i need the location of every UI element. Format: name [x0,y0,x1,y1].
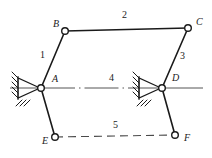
link-label-1: 1 [40,50,45,60]
pivot-hatching-A [12,72,30,106]
linkage-diagram-figure: A B C D E F 1 2 3 4 5 [0,0,212,158]
joint-label-E: E [42,136,48,146]
joint-marker-C [185,25,192,32]
joint-marker-E [52,134,59,141]
link-5-dashed-path [55,135,175,137]
link-label-5: 5 [113,120,118,130]
diagram-canvas [0,0,212,158]
joint-marker-F [172,132,179,139]
link-label-4: 4 [109,73,114,83]
link-5-line [55,135,175,137]
link-label-2: 2 [122,10,127,20]
joint-label-C: C [196,17,203,27]
fixed-pivot-support-A [12,72,40,106]
joint-label-D: D [172,73,179,83]
link-2-path-B-C [65,28,188,31]
fixed-pivot-support-D [133,72,161,106]
segment-path-D-F [162,88,175,135]
joint-marker-A [38,85,45,92]
joint-marker-D [159,85,166,92]
link-label-3: 3 [180,51,185,61]
joint-label-F: F [184,133,190,143]
joint-label-A: A [52,74,58,84]
joint-marker-B [62,28,69,35]
pivot-hatching-D [133,72,151,106]
joint-label-B: B [53,19,59,29]
segment-path-A-E [41,88,55,137]
